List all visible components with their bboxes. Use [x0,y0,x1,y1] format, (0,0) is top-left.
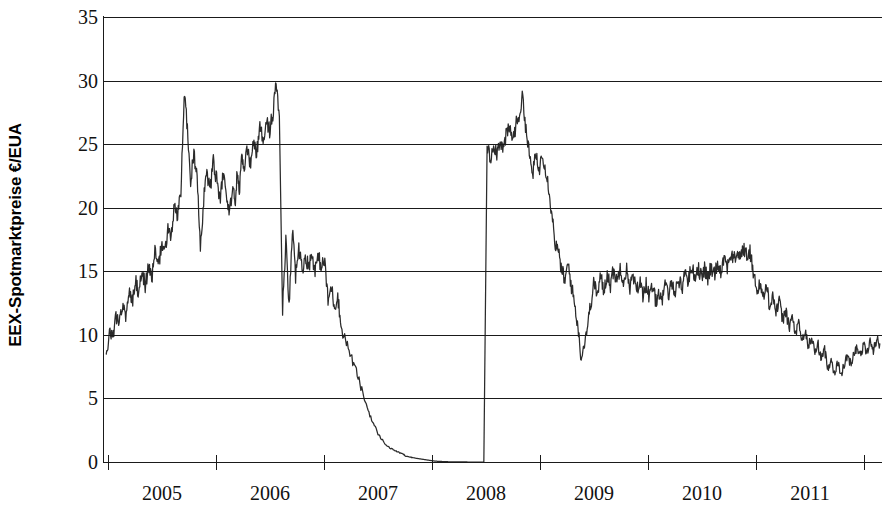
x-tick-label: 2006 [250,482,290,505]
x-axis: 2005 2006 2007 2008 2009 2010 2011 [103,462,882,510]
gridline-30 [103,81,882,82]
x-tick-2009 [540,455,541,470]
gridline-15 [103,271,882,272]
y-tick-label: 0 [40,452,98,472]
x-tick-label: 2010 [682,482,722,505]
gridline-25 [103,144,882,145]
x-tick-2012 [864,455,865,470]
gridline-5 [103,398,882,399]
y-tick-label: 5 [40,388,98,408]
y-axis-title: EEX-Spotmarktpreise €/EUA [0,0,33,470]
x-tick-2006 [216,455,217,470]
x-tick-label: 2007 [358,482,398,505]
y-tick-label: 25 [40,134,98,154]
series-line-chart [103,17,882,462]
x-tick-2010 [648,455,649,470]
y-axis-title-text: EEX-Spotmarktpreise €/EUA [6,123,26,347]
x-tick-label: 2008 [466,482,506,505]
x-tick-2008 [432,455,433,470]
y-tick-label: 20 [40,198,98,218]
y-tick-label: 35 [40,7,98,27]
y-axis-tick-labels: 35 30 25 20 15 10 5 0 [36,0,98,480]
x-tick-label: 2009 [574,482,614,505]
x-tick-2005 [108,455,109,470]
y-tick-label: 10 [40,325,98,345]
x-tick-label: 2011 [790,482,829,505]
x-tick-2011 [756,455,757,470]
plot-area [103,17,882,462]
y-tick-label: 30 [40,71,98,91]
x-tick-label: 2005 [142,482,182,505]
y-axis-line [103,16,104,463]
chart-figure: EEX-Spotmarktpreise €/EUA 35 30 25 20 15… [0,0,882,510]
x-tick-2007 [324,455,325,470]
gridline-35 [103,17,882,18]
gridline-10 [103,335,882,336]
y-tick-label: 15 [40,261,98,281]
gridline-20 [103,208,882,209]
series-path-eex-spot [106,83,880,462]
